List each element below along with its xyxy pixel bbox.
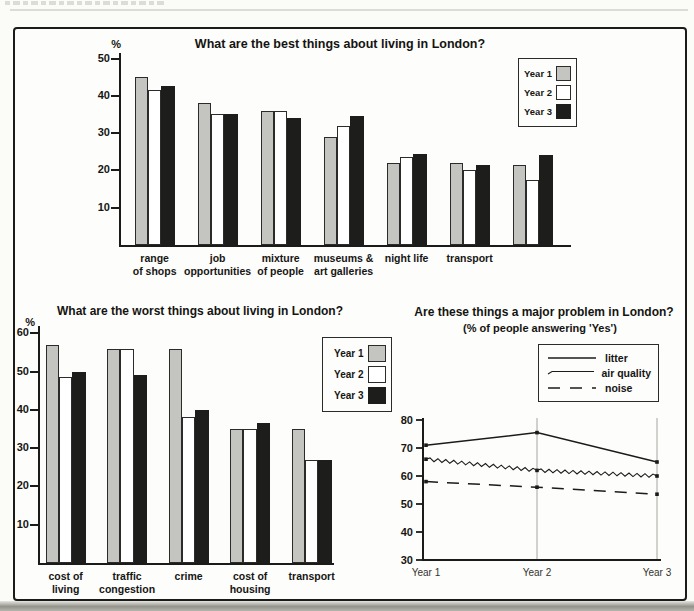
bar-worst-transport-y2: [305, 460, 318, 563]
legend-line-sample-zigzag: [546, 368, 594, 378]
problems-line-plot: 304050607080Year 1Year 2Year 3: [385, 406, 693, 606]
best-x-axis: [119, 245, 571, 247]
bar-best-museums-&-y3: [350, 116, 363, 245]
problems-xlabel-3: Year 3: [643, 567, 672, 578]
worst-legend-label-0: Year 1: [334, 348, 363, 359]
scan-shadow-right: [688, 12, 694, 604]
worst-ytickmark-40: [30, 409, 38, 411]
worst-ytick-20: 20: [3, 479, 29, 491]
worst-y-axis: [38, 326, 40, 565]
problems-legend-row-0: litter: [546, 352, 651, 364]
bar-best-group7-y2: [526, 180, 539, 245]
best-legend-label-2: Year 3: [524, 106, 552, 117]
worst-ytickmark-60: [30, 332, 38, 334]
point-noise-2: [535, 485, 539, 489]
problems-legend-row-2: noise: [546, 382, 651, 394]
charts-layer: 1020304050range of shopsjob opportunitie…: [0, 0, 694, 611]
bar-best-transport-y2: [463, 170, 476, 245]
worst-ytickmark-20: [30, 485, 38, 487]
problems-ytick-50: 50: [401, 498, 413, 510]
best-ytick-10: 10: [84, 201, 110, 213]
point-litter-3: [655, 460, 659, 464]
bar-best-group7-y1: [513, 165, 526, 245]
bar-worst-cost-of-y3: [72, 372, 85, 564]
best-ytickmark-20: [111, 169, 119, 171]
bar-best-mixture-y1: [261, 111, 274, 245]
problems-ytick-70: 70: [401, 442, 413, 454]
worst-ytick-40: 40: [3, 403, 29, 415]
bar-worst-crime-y2: [182, 417, 195, 563]
bar-worst-traffic-y2: [120, 349, 133, 563]
bar-best-group7-y3: [539, 155, 552, 245]
best-legend-swatch-2: [556, 104, 571, 119]
bar-worst-cost-of-y2: [243, 429, 256, 563]
bar-best-transport-y1: [450, 163, 463, 245]
bar-best-night-life-y2: [400, 157, 413, 245]
worst-ytick-10: 10: [3, 518, 29, 530]
worst-ytick-50: 50: [3, 365, 29, 377]
best-ytick-20: 20: [84, 163, 110, 175]
best-ytick-40: 40: [84, 89, 110, 101]
series-line-noise: [426, 482, 657, 495]
best-legend-row-0: Year 1: [524, 66, 571, 81]
point-noise-3: [655, 492, 659, 496]
best-legend-swatch-1: [556, 85, 571, 100]
worst-legend-label-2: Year 3: [334, 390, 363, 401]
bar-best-transport-y3: [476, 165, 489, 245]
series-line-litter: [426, 433, 657, 462]
bar-best-job-y3: [224, 114, 237, 245]
worst-ytickmark-10: [30, 524, 38, 526]
bar-best-mixture-y3: [287, 118, 300, 245]
bar-best-museums-&-y1: [324, 137, 337, 245]
best-legend-swatch-0: [556, 66, 571, 81]
problems-legend-label-0: litter: [605, 352, 628, 364]
worst-legend-swatch-1: [368, 366, 386, 383]
bar-worst-cost-of-y3: [257, 423, 270, 563]
best-legend-row-1: Year 2: [524, 85, 571, 100]
worst-legend-row-0: Year 1: [328, 345, 386, 362]
problems-legend-row-1: air quality: [546, 367, 651, 379]
bar-worst-transport-y3: [318, 460, 331, 563]
bar-worst-traffic-y1: [107, 349, 120, 563]
scan-shadow-bottom: [0, 601, 694, 611]
scanned-page: What are the best things about living in…: [0, 0, 694, 611]
bar-worst-transport-y1: [292, 429, 305, 563]
best-legend-row-2: Year 3: [524, 104, 571, 119]
legend-line-sample-dashed: [546, 383, 598, 393]
bar-best-mixture-y2: [274, 111, 287, 245]
problems-legend-label-2: noise: [605, 382, 632, 394]
worst-legend-row-2: Year 3: [328, 387, 386, 404]
legend-line-glyph: [548, 372, 594, 375]
worst-legend-swatch-2: [368, 387, 386, 404]
problems-ytick-80: 80: [401, 414, 413, 426]
best-y-axis: [119, 53, 121, 247]
worst-ytick-60: 60: [3, 326, 29, 338]
problems-ytick-40: 40: [401, 526, 413, 538]
problems-ytick-30: 30: [401, 554, 413, 566]
point-air-quality-3: [655, 474, 659, 478]
best-ytick-50: 50: [84, 52, 110, 64]
problems-legend-label-1: air quality: [601, 367, 651, 379]
best-ytick-30: 30: [84, 126, 110, 138]
worst-ytick-30: 30: [3, 441, 29, 453]
point-noise-1: [424, 480, 428, 484]
best-x-category-5: transport: [428, 252, 512, 265]
bar-best-night-life-y3: [413, 154, 426, 245]
best-legend: Year 1Year 2Year 3: [518, 58, 577, 127]
point-air-quality-1: [424, 457, 428, 461]
worst-ytickmark-50: [30, 371, 38, 373]
best-ytickmark-30: [111, 132, 119, 134]
best-legend-label-1: Year 2: [524, 87, 552, 98]
bar-best-museums-&-y2: [337, 126, 350, 245]
worst-legend-swatch-0: [368, 345, 386, 362]
legend-line-sample-solid: [546, 353, 598, 363]
worst-legend-row-1: Year 2: [328, 366, 386, 383]
worst-x-axis: [38, 563, 334, 565]
problems-xlabel-2: Year 2: [523, 567, 552, 578]
bar-worst-traffic-y3: [134, 375, 147, 563]
best-ytickmark-50: [111, 58, 119, 60]
bar-best-range-y2: [148, 90, 161, 245]
bar-worst-crime-y3: [195, 410, 208, 563]
series-line-air-quality: [426, 458, 657, 477]
bar-best-job-y1: [198, 103, 211, 245]
